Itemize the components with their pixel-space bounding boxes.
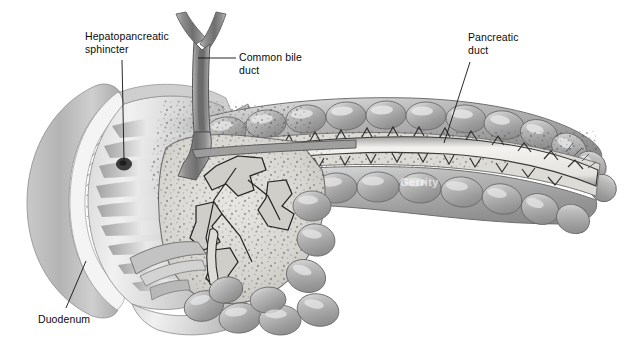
label-common-bile-duct: Common bile duct [239,51,302,76]
anatomy-figure: Hepatopancreatic sphincter Common bile d… [0,0,638,353]
label-pancreatic-duct: Pancreatic duct [468,31,519,56]
label-hepatopancreatic-sphincter: Hepatopancreatic sphincter [85,30,169,55]
label-duodenum: Duodenum [38,313,90,326]
